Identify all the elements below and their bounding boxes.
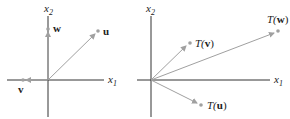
vector-w-label: w <box>53 22 61 34</box>
vector-Tw-label: T(w) <box>267 13 289 26</box>
vector-u-dot <box>96 29 100 33</box>
vector-Tu-dot <box>199 103 203 107</box>
vector-Tu-label: T(u) <box>207 99 227 112</box>
left-panel: x2 x1 u w v <box>7 2 117 117</box>
vector-Tw-dot <box>276 29 280 33</box>
right-y-axis-label: x2 <box>145 2 155 17</box>
vector-Tv-dot <box>188 41 192 45</box>
vector-Tv-label: T(v) <box>195 37 214 50</box>
vector-w-dot <box>46 27 50 31</box>
right-panel: x2 x1 T(v) T(w) T(u) <box>137 2 289 117</box>
vector-u-arrow <box>48 34 95 80</box>
vector-v-label: v <box>18 83 24 95</box>
left-x-axis-label: x1 <box>107 73 117 88</box>
vector-Tv-arrow <box>151 46 186 80</box>
right-x-axis-label: x1 <box>273 73 283 88</box>
vector-u-label: u <box>103 25 109 37</box>
left-y-axis-label: x2 <box>43 2 53 17</box>
linear-transformation-diagram: x2 x1 u w v x2 x1 T(v) T(w) T(u) <box>0 0 290 119</box>
vector-Tu-arrow <box>151 80 197 103</box>
vector-v-dot <box>21 78 25 82</box>
